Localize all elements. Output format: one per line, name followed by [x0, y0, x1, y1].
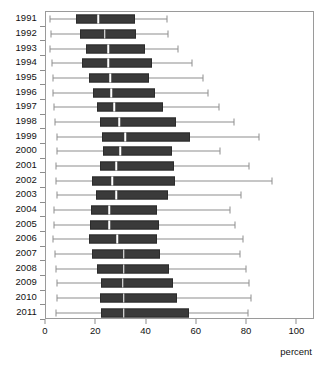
x-tick-mark [195, 319, 196, 324]
upper-whisker [135, 19, 167, 20]
iqr-box [101, 279, 173, 288]
iqr-box [82, 59, 151, 68]
y-tick-label-2003: 2003 [15, 189, 37, 199]
iqr-box [101, 308, 189, 317]
upper-whisker [152, 63, 192, 64]
iqr-box [100, 118, 176, 127]
median-line [125, 132, 127, 141]
min-cap [56, 192, 57, 199]
lower-whisker [54, 107, 97, 108]
lower-whisker [56, 268, 97, 269]
y-tick-mark [40, 260, 45, 261]
max-cap [250, 295, 251, 302]
x-tick-label-100: 100 [288, 325, 304, 336]
max-cap [220, 148, 221, 155]
y-tick-label-1991: 1991 [15, 13, 37, 23]
y-tick-mark [40, 246, 45, 247]
y-tick-mark [40, 187, 45, 188]
y-tick-label-1993: 1993 [15, 43, 37, 53]
min-cap [55, 163, 56, 170]
box-plot-row-1993 [46, 42, 313, 56]
y-tick-mark [40, 216, 45, 217]
box-plot-row-2006 [46, 232, 313, 246]
upper-whisker [190, 136, 259, 137]
median-line [110, 88, 112, 97]
min-cap [51, 60, 52, 67]
min-cap [53, 221, 54, 228]
x-tick-label-60: 60 [191, 325, 202, 336]
min-cap [55, 309, 56, 316]
lower-whisker [57, 195, 96, 196]
y-tick-label-2006: 2006 [15, 233, 37, 243]
y-tick-mark [40, 202, 45, 203]
min-cap [52, 75, 53, 82]
min-cap [54, 119, 55, 126]
median-line [118, 118, 120, 127]
lower-whisker [50, 19, 76, 20]
upper-whisker [159, 224, 235, 225]
lower-whisker [57, 151, 103, 152]
box-plot-row-2002 [46, 174, 313, 188]
box-plot-row-2000 [46, 144, 313, 158]
plot-area [45, 11, 314, 319]
iqr-box [97, 264, 169, 273]
lower-whisker [50, 48, 86, 49]
y-tick-mark [40, 26, 45, 27]
y-tick-label-2001: 2001 [15, 160, 37, 170]
min-cap [52, 89, 53, 96]
x-tick-label-80: 80 [241, 325, 252, 336]
iqr-box [80, 30, 137, 39]
max-cap [177, 45, 178, 52]
median-line [122, 279, 124, 288]
median-line [123, 264, 125, 273]
upper-whisker [160, 254, 240, 255]
box-plot-row-2007 [46, 247, 313, 261]
upper-whisker [145, 48, 178, 49]
lower-whisker [55, 122, 100, 123]
iqr-box [100, 162, 174, 171]
median-line [116, 235, 118, 244]
x-tick-mark [296, 319, 297, 324]
iqr-box [102, 132, 190, 141]
box-plot-row-2008 [46, 262, 313, 276]
min-cap [56, 148, 57, 155]
median-line [109, 220, 111, 229]
iqr-box [91, 206, 157, 215]
box-plot-row-1995 [46, 71, 313, 85]
x-tick-mark [145, 319, 146, 324]
min-cap [53, 104, 54, 111]
median-line [110, 74, 112, 83]
y-tick-label-2009: 2009 [15, 277, 37, 287]
lower-whisker [53, 78, 89, 79]
iqr-box [76, 15, 135, 24]
box-plot-row-1992 [46, 27, 313, 41]
y-tick-label-2010: 2010 [15, 292, 37, 302]
x-tick-mark [95, 319, 96, 324]
max-cap [248, 163, 249, 170]
max-cap [192, 60, 193, 67]
y-tick-label-1998: 1998 [15, 116, 37, 126]
y-tick-mark [40, 143, 45, 144]
lower-whisker [51, 34, 80, 35]
iqr-box [92, 250, 160, 259]
min-cap [56, 280, 57, 287]
y-tick-mark [40, 231, 45, 232]
y-tick-label-2011: 2011 [16, 307, 37, 317]
y-axis-years: 1991199219931994199519961997199819992000… [0, 11, 45, 319]
box-plot-row-1998 [46, 115, 313, 129]
median-line [108, 59, 110, 68]
min-cap [50, 45, 51, 52]
max-cap [248, 309, 249, 316]
x-tick-label-40: 40 [140, 325, 151, 336]
y-tick-label-1997: 1997 [15, 101, 37, 111]
iqr-box [97, 103, 163, 112]
upper-whisker [177, 298, 250, 299]
lower-whisker [57, 283, 101, 284]
y-tick-mark [40, 114, 45, 115]
y-tick-mark [40, 275, 45, 276]
iqr-box [86, 44, 144, 53]
upper-whisker [172, 151, 221, 152]
x-tick-label-0: 0 [42, 325, 47, 336]
max-cap [235, 221, 236, 228]
lower-whisker [57, 298, 100, 299]
